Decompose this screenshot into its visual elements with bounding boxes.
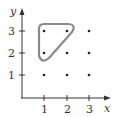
x-axis-arrow-icon (104, 96, 111, 101)
y-tick-label-3: 3 (8, 25, 15, 38)
lattice-diagram: y x 1 2 3 3 2 1 (0, 0, 117, 117)
x-axis-label: x (104, 102, 111, 115)
y-tick-label-1: 1 (8, 69, 15, 82)
y-tick-label-2: 2 (8, 47, 15, 60)
point-1-1 (43, 74, 46, 77)
point-1-3 (43, 30, 46, 33)
y-axis-label: y (9, 5, 17, 18)
point-3-3 (88, 30, 91, 33)
point-2-1 (66, 74, 69, 77)
x-tick-label-1: 1 (41, 103, 48, 116)
x-tick-label-2: 2 (64, 103, 71, 116)
point-2-2 (66, 52, 69, 55)
y-axis-arrow-icon (20, 8, 25, 15)
x-tick-label-3: 3 (86, 103, 93, 116)
point-2-3 (66, 30, 69, 33)
point-1-2 (43, 52, 46, 55)
point-3-1 (88, 74, 91, 77)
enclosure-outline (39, 24, 74, 61)
point-3-2 (88, 52, 91, 55)
